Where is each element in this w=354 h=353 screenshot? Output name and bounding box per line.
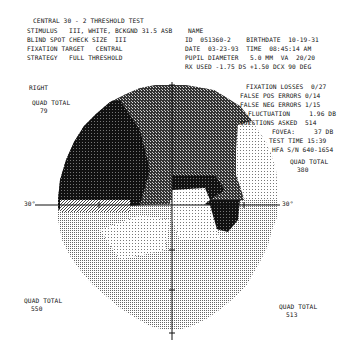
axis-label-left: 30°	[24, 200, 35, 209]
fovea: FOVEA: 37 DB	[272, 128, 333, 137]
quad-total-ur-value: 380	[297, 166, 308, 175]
hfa-serial: HFA S/N 640-1654	[272, 146, 333, 155]
quad-total-lr-value: 513	[286, 311, 297, 320]
quad-total-ul-label: QUAD TOTAL	[32, 99, 70, 108]
quad-total-ur-label: QUAD TOTAL	[290, 158, 328, 167]
false-pos-errors: FALSE POS ERRORS 0/14	[240, 92, 320, 101]
quad-total-ul-value: 79	[40, 107, 48, 116]
fluctuation: FLUCTUATION 1.96 DB	[248, 110, 336, 119]
false-neg-errors: FALSE NEG ERRORS 1/15	[240, 101, 320, 110]
questions-asked: QUESTIONS ASKED 514	[240, 119, 317, 128]
axis-label-right: 30°	[282, 200, 293, 209]
quad-total-lr-label: QUAD TOTAL	[279, 303, 317, 312]
fixation-losses: FIXATION LOSSES 0/27	[246, 83, 326, 92]
quad-total-ll-label: QUAD TOTAL	[24, 297, 62, 306]
quad-total-ll-value: 550	[31, 305, 42, 314]
test-time: TEST TIME 15:39	[269, 137, 326, 146]
eye-label: RIGHT	[29, 84, 48, 93]
